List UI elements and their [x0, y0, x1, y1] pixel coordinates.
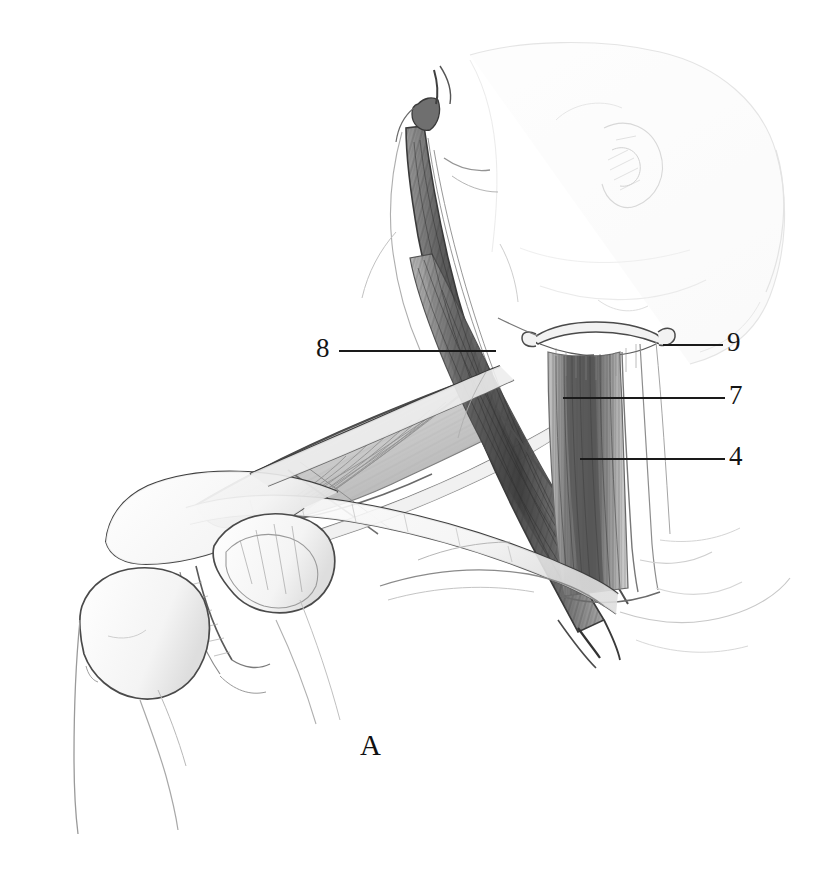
leader-line-7 [563, 397, 725, 399]
label-7: 7 [729, 382, 743, 409]
label-8: 8 [316, 335, 330, 362]
leader-line-8 [339, 350, 496, 352]
label-4: 4 [729, 443, 743, 470]
label-layer: 8 9 7 4 A [0, 0, 831, 888]
panel-letter-a: A [360, 729, 381, 762]
anatomical-figure: 8 9 7 4 A [0, 0, 831, 888]
leader-line-9 [663, 344, 723, 346]
label-9: 9 [727, 329, 741, 356]
leader-line-4 [580, 458, 725, 460]
